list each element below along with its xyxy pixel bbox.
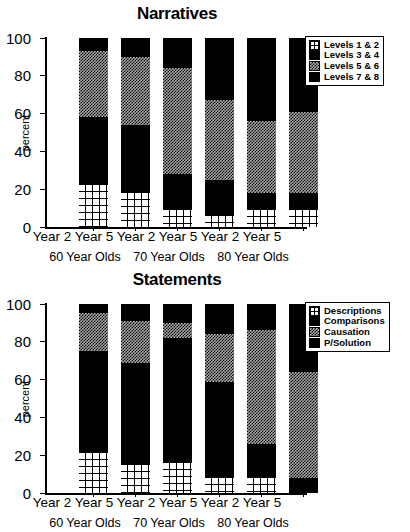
- legend-item: Levels 3 & 4: [309, 50, 379, 60]
- legend-item: Descriptions: [309, 306, 385, 316]
- y-tick-40: 40: [14, 410, 31, 425]
- bar-segment: [121, 125, 150, 193]
- narratives-legend: Levels 1 & 2Levels 3 & 4Levels 5 & 6Leve…: [305, 36, 384, 86]
- bar-segment: [163, 338, 192, 463]
- legend-swatch-icon: [309, 306, 320, 316]
- bar-segment: [205, 334, 234, 381]
- legend-label: Levels 1 & 2: [324, 40, 379, 50]
- legend-label: Causation: [324, 327, 370, 337]
- y-tick-20: 20: [14, 448, 31, 463]
- bar-segment: [247, 193, 276, 210]
- group-label-70: 70 Year Olds: [121, 516, 217, 530]
- xlabel-3: Year 5: [155, 229, 201, 244]
- bar-segment: [247, 210, 276, 227]
- legend-swatch-icon: [309, 40, 320, 50]
- bar-segment: [247, 478, 276, 493]
- narratives-plot-area: percent 0 20 40 60 80 100: [47, 38, 291, 227]
- narratives-chart: Narratives percent 0 20 40 60 80 100 Yea…: [0, 0, 410, 266]
- bar-segment: [247, 38, 276, 121]
- bar-2: [163, 38, 192, 227]
- legend-swatch-icon: [309, 327, 320, 337]
- statements-chart: Statements percent 0 20 40 60 80 100 Yea…: [0, 266, 410, 532]
- bar-segment: [79, 351, 108, 453]
- bar-segment: [79, 313, 108, 351]
- xlabel-3: Year 5: [155, 495, 201, 510]
- bar-segment: [163, 463, 192, 493]
- bar-segment: [205, 478, 234, 493]
- legend-swatch-icon: [309, 50, 320, 60]
- bar-segment: [79, 38, 108, 51]
- xlabel-1: Year 5: [71, 229, 117, 244]
- narratives-x-labels: Year 2 Year 5 Year 2 Year 5 Year 2 Year …: [47, 229, 297, 269]
- legend-item: Levels 5 & 6: [309, 61, 379, 71]
- statements-bars: [47, 304, 291, 493]
- bar-segment: [289, 372, 318, 478]
- bar-4: [247, 38, 276, 227]
- statements-x-labels: Year 2 Year 5 Year 2 Year 5 Year 2 Year …: [47, 495, 297, 532]
- bar-4: [247, 304, 276, 493]
- bar-0: [79, 38, 108, 227]
- legend-label: P/Solution: [324, 338, 371, 348]
- bar-segment: [121, 193, 150, 227]
- bar-segment: [79, 185, 108, 227]
- bar-segment: [205, 38, 234, 100]
- narratives-title: Narratives: [0, 4, 382, 24]
- xlabel-0: Year 2: [29, 495, 75, 510]
- legend-item: Causation: [309, 327, 385, 337]
- statements-title: Statements: [0, 270, 382, 290]
- group-label-80: 80 Year Olds: [205, 516, 301, 530]
- bar-segment: [289, 478, 318, 493]
- legend-swatch-icon: [309, 338, 320, 348]
- legend-item: Comparisons: [309, 316, 385, 326]
- bar-segment: [205, 304, 234, 334]
- bar-segment: [205, 100, 234, 179]
- bar-segment: [247, 121, 276, 193]
- bar-segment: [289, 112, 318, 193]
- legend-item: Levels 7 & 8: [309, 72, 379, 82]
- xlabel-2: Year 2: [113, 495, 159, 510]
- y-tick-80: 80: [14, 334, 31, 349]
- bar-segment: [121, 363, 150, 465]
- y-tick-20: 20: [14, 182, 31, 197]
- y-tick-100: 100: [6, 297, 31, 312]
- group-label-80: 80 Year Olds: [205, 250, 301, 264]
- bar-segment: [163, 210, 192, 227]
- bar-segment: [163, 68, 192, 174]
- bar-segment: [247, 304, 276, 330]
- bar-segment: [163, 304, 192, 323]
- xlabel-5: Year 5: [239, 229, 285, 244]
- y-tick-40: 40: [14, 144, 31, 159]
- bar-segment: [247, 330, 276, 443]
- group-label-70: 70 Year Olds: [121, 250, 217, 264]
- bar-0: [79, 304, 108, 493]
- bar-segment: [163, 323, 192, 338]
- legend-label: Levels 7 & 8: [324, 72, 379, 82]
- statements-legend: DescriptionsComparisonsCausationP/Soluti…: [305, 302, 390, 352]
- bar-segment: [247, 444, 276, 478]
- bar-segment: [163, 174, 192, 210]
- bar-segment: [121, 38, 150, 57]
- xlabel-2: Year 2: [113, 229, 159, 244]
- bar-segment: [289, 210, 318, 227]
- legend-item: Levels 1 & 2: [309, 40, 379, 50]
- bar-1: [121, 304, 150, 493]
- bar-segment: [289, 193, 318, 210]
- legend-label: Descriptions: [324, 306, 382, 316]
- legend-label: Comparisons: [324, 316, 385, 326]
- bar-segment: [79, 304, 108, 313]
- bar-segment: [205, 180, 234, 216]
- bar-segment: [121, 465, 150, 493]
- group-label-60: 60 Year Olds: [37, 250, 133, 264]
- legend-swatch-icon: [309, 72, 320, 82]
- bar-segment: [121, 57, 150, 125]
- xlabel-4: Year 2: [197, 495, 243, 510]
- legend-swatch-icon: [309, 61, 320, 71]
- narratives-bars: [47, 38, 291, 227]
- bar-1: [121, 38, 150, 227]
- statements-plot-area: percent 0 20 40 60 80 100: [47, 304, 291, 493]
- bar-segment: [79, 51, 108, 117]
- bar-segment: [121, 304, 150, 321]
- bar-segment: [205, 382, 234, 478]
- legend-label: Levels 3 & 4: [324, 50, 379, 60]
- xlabel-0: Year 2: [29, 229, 75, 244]
